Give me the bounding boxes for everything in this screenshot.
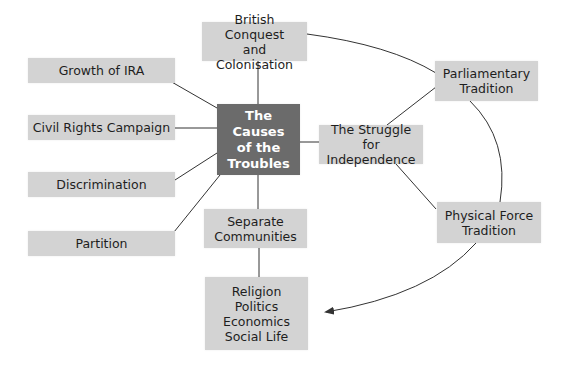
node-discrimination: Discrimination	[28, 172, 175, 197]
node-aspects-list: Religion Politics Economics Social Life	[205, 277, 308, 350]
node-separate-communities: Separate Communities	[204, 209, 307, 248]
node-struggle-for-independence: The Struggle for Independence	[319, 125, 423, 164]
edge-center-ira	[170, 81, 217, 108]
node-label: British Conquest and Colonisation	[206, 12, 303, 72]
node-partition: Partition	[28, 231, 175, 256]
central-node-label: The Causes of the Troubles	[221, 108, 296, 172]
node-growth-of-ira: Growth of IRA	[28, 58, 175, 83]
edge-center-discrimination	[175, 153, 217, 180]
edge-british-parliamentary	[307, 34, 436, 73]
node-label: The Struggle for Independence	[323, 122, 419, 167]
edge-parliamentary-physical	[470, 101, 502, 202]
node-label: Religion Politics Economics Social Life	[223, 284, 290, 344]
node-british-conquest: British Conquest and Colonisation	[202, 22, 307, 61]
node-label: Parliamentary Tradition	[443, 66, 530, 96]
node-label: Growth of IRA	[59, 63, 145, 78]
node-label: Separate Communities	[214, 214, 297, 244]
node-civil-rights-campaign: Civil Rights Campaign	[28, 115, 175, 140]
node-label: Discrimination	[56, 177, 146, 192]
central-node: The Causes of the Troubles	[217, 104, 300, 175]
node-parliamentary-tradition: Parliamentary Tradition	[435, 61, 538, 101]
node-label: Physical Force Tradition	[445, 208, 534, 238]
node-label: Civil Rights Campaign	[33, 120, 170, 135]
node-physical-force-tradition: Physical Force Tradition	[437, 202, 541, 243]
edge-struggle-physical	[396, 164, 436, 209]
edge-struggle-parliamentary	[387, 87, 436, 125]
edge-physical-aspects-arrow	[326, 243, 476, 312]
node-label: Partition	[75, 236, 127, 251]
